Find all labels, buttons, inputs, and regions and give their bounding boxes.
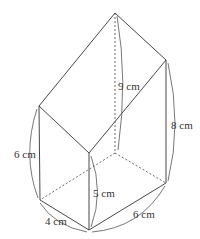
edge-left-vertical xyxy=(39,106,40,200)
edge-apex-right xyxy=(115,13,166,60)
hidden-edges xyxy=(40,13,166,200)
label-right-height: 8 cm xyxy=(171,119,193,131)
label-front-height: 5 cm xyxy=(93,187,115,199)
label-base-left: 4 cm xyxy=(45,215,67,227)
hidden-edge-back-right xyxy=(115,153,166,183)
label-base-right: 6 cm xyxy=(133,208,155,220)
solid-figure: 9 cm 8 cm 6 cm 5 cm 4 cm 6 cm xyxy=(0,0,200,239)
edge-apex-left xyxy=(39,13,115,106)
edge-right-front xyxy=(89,60,166,153)
edge-left-front xyxy=(39,106,89,153)
label-left-height: 6 cm xyxy=(14,148,36,160)
label-apex-height: 9 cm xyxy=(118,80,140,92)
